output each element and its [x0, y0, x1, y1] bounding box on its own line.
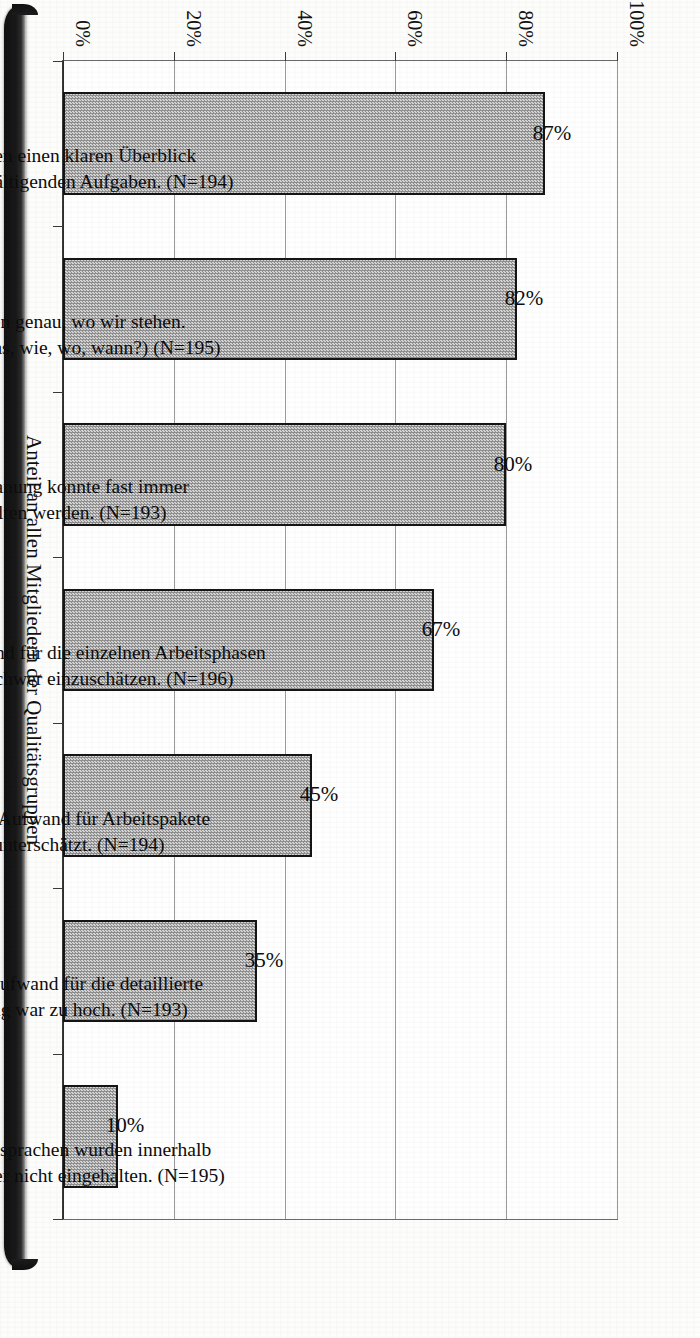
rotated-figure-wrapper: 0%20%40%60%80%100% 87%82%80%67%45%35%10%… [0, 0, 700, 1338]
bar-value-label: 35% [245, 950, 284, 971]
value-axis-tick-label: 40% [295, 0, 315, 47]
bar-chart: 0%20%40%60%80%100% 87%82%80%67%45%35%10%… [20, 24, 680, 1314]
value-axis-title: Anteil an allen Mitgliedern der Qualität… [23, 60, 44, 1220]
bar-value-label: 67% [422, 619, 461, 640]
value-axis-tick [617, 52, 618, 61]
value-axis-tick-label: 100% [627, 0, 647, 47]
bar-value-label: 82% [505, 288, 544, 309]
scanned-chart-page: 0%20%40%60%80%100% 87%82%80%67%45%35%10%… [0, 0, 700, 1338]
value-axis-tick [506, 52, 507, 61]
value-axis-tick-label: 20% [184, 0, 204, 47]
bar-value-label: 10% [106, 1115, 145, 1136]
bar-value-label: 87% [533, 123, 572, 144]
value-axis-tick [174, 52, 175, 61]
value-axis-tick [395, 52, 396, 61]
value-axis-tick-label: 0% [73, 0, 93, 47]
value-axis-tick [63, 52, 64, 61]
bar-value-label: 80% [494, 454, 533, 475]
value-axis-tick [285, 52, 286, 61]
gridline-100% [617, 61, 618, 1219]
value-axis-tick-label: 80% [516, 0, 536, 47]
bar-value-label: 45% [300, 784, 339, 805]
value-axis-tick-label: 60% [405, 0, 425, 47]
